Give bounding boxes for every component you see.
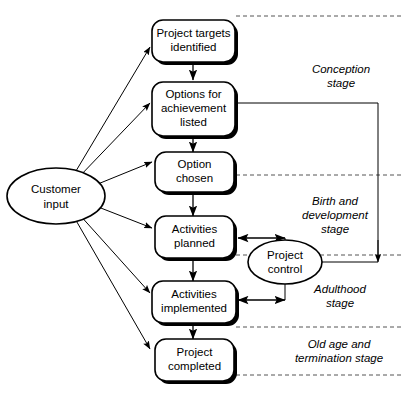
node-customer-input[interactable]: Customer input <box>7 168 105 224</box>
ellipse-outline <box>7 168 105 224</box>
node-label-line2: planned <box>174 237 215 249</box>
stage-label-conception: Conception stage <box>312 63 370 89</box>
node-label-line1: Project targets <box>156 27 230 39</box>
arrow-customer-to-activities-implemented <box>78 213 150 293</box>
node-label-line1: Option <box>178 158 212 170</box>
node-label-line1: Project <box>267 249 304 261</box>
node-activities-planned[interactable]: Activities planned <box>155 216 237 261</box>
path-options-to-adulthood <box>236 103 378 256</box>
node-label-line2: input <box>44 198 70 210</box>
node-label-line2: completed <box>168 360 221 372</box>
flowchart-canvas: Project targets identified Options for a… <box>0 0 408 397</box>
node-label-line1: Project <box>177 346 214 358</box>
node-label-line3: listed <box>180 116 207 128</box>
node-project-completed[interactable]: Project completed <box>155 339 237 384</box>
ellipse-outline <box>248 240 322 284</box>
stage-label-line1: Birth and <box>312 195 359 207</box>
node-label-line1: Activities <box>172 223 218 235</box>
node-label-line1: Customer <box>31 183 81 195</box>
stage-label-line2: stage <box>327 77 355 89</box>
stage-label-birth-and-development: Birth and development stage <box>302 195 369 235</box>
node-options-for-achievement-listed[interactable]: Options for achievement listed <box>152 82 238 139</box>
stage-label-line2: termination stage <box>295 352 383 364</box>
node-label-line1: Activities <box>171 288 217 300</box>
stage-label-line2: development <box>302 209 369 221</box>
node-label-line2: identified <box>170 41 216 53</box>
stage-label-adulthood: Adulthood stage <box>313 283 366 309</box>
node-label-line2: achievement <box>161 102 227 114</box>
stage-label-line1: Adulthood <box>313 283 366 295</box>
stage-label-line1: Old age and <box>308 338 371 350</box>
node-activities-implemented[interactable]: Activities implemented <box>152 281 239 326</box>
node-project-control[interactable]: Project control <box>248 240 322 284</box>
flowchart-diagram: Project targets identified Options for a… <box>0 0 408 397</box>
arrow-customer-to-project-targets <box>70 47 150 181</box>
node-label-line2: control <box>268 263 303 275</box>
stage-label-line2: stage <box>326 297 354 309</box>
node-option-chosen[interactable]: Option chosen <box>155 152 237 195</box>
node-label-line1: Options for <box>165 88 221 100</box>
stage-label-old-age-and-termination: Old age and termination stage <box>295 338 383 364</box>
node-label-line2: chosen <box>176 172 213 184</box>
stage-label-line1: Conception <box>312 63 370 75</box>
stage-label-line3: stage <box>321 223 349 235</box>
node-project-targets-identified[interactable]: Project targets identified <box>152 20 238 65</box>
node-label-line2: implemented <box>161 302 227 314</box>
